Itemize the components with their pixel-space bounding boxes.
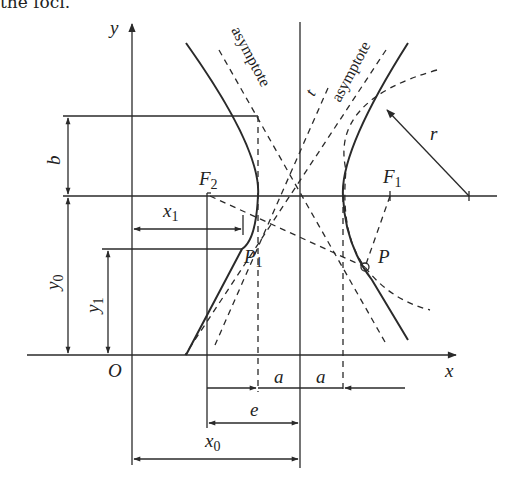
y-axis-label: y [108, 17, 119, 38]
hyperbola-diagram: y x x O F2 F1 P P1 asymptote asymptote t… [0, 0, 513, 493]
a-left-label: a [274, 366, 284, 387]
tangent-label: t [302, 86, 319, 98]
origin-label: O [108, 360, 122, 381]
b-label: b [43, 156, 64, 166]
y0-label: y0 [42, 275, 66, 292]
y1-label: y1 [82, 298, 106, 315]
radius-label: r [430, 123, 438, 144]
focal-line-f2-p [210, 196, 365, 267]
focus-right-label: F1 [382, 166, 402, 190]
asymptote-right-line [185, 50, 386, 355]
x0-label: x0 [204, 430, 220, 454]
asymptote-right-label: asymptote [328, 38, 375, 105]
hyperbola-left-branch [186, 43, 258, 355]
asymptote-left-label: asymptote [227, 23, 274, 90]
point-p1-label: P1 [243, 246, 263, 270]
hyperbola-right-branch [343, 43, 408, 340]
e-label: e [250, 399, 258, 420]
radius-arc [344, 70, 437, 310]
focus-left-label: F2 [198, 168, 218, 192]
a-right-label: a [316, 366, 326, 387]
x-axis-label-visible: x [444, 360, 454, 381]
point-p-label: P [377, 246, 390, 267]
x1-label: x1 [162, 200, 178, 224]
tangent-line [215, 88, 328, 345]
